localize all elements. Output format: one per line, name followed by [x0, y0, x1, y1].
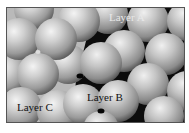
void — [98, 109, 105, 114]
label-layer-b: Layer B — [87, 92, 123, 103]
packing-diagram: Layer A Layer B Layer C — [6, 7, 185, 123]
label-layer-c: Layer C — [17, 102, 53, 113]
label-layer-a: Layer A — [109, 12, 145, 23]
void — [36, 50, 41, 54]
void — [77, 74, 84, 79]
sphere — [80, 42, 122, 84]
